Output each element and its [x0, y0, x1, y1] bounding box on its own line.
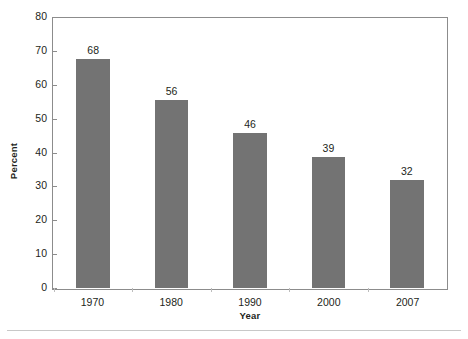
bar-value-label: 56 — [166, 85, 178, 97]
bar-value-label: 32 — [401, 165, 413, 177]
x-tick-label: 1990 — [211, 296, 290, 308]
x-axis-tick-labels: 19701980199020002007 — [53, 296, 447, 308]
y-tick-label: 30 — [35, 179, 47, 191]
y-tick-label: 80 — [35, 10, 47, 22]
y-tick-label: 10 — [35, 247, 47, 259]
bar-slot: 32 — [368, 19, 446, 288]
y-axis-title: Percent — [8, 121, 19, 201]
footer-divider — [7, 330, 461, 331]
bar-slot: 68 — [54, 19, 132, 288]
bar[interactable]: 56 — [155, 100, 189, 288]
y-tick-label: 70 — [35, 44, 47, 56]
x-tick-label: 2007 — [368, 296, 447, 308]
y-tick-label: 20 — [35, 213, 47, 225]
x-tick-mark — [54, 288, 55, 292]
x-tick-mark — [289, 288, 290, 292]
bar-slot: 56 — [132, 19, 210, 288]
bars-container: 6856463932 — [54, 19, 446, 288]
x-tick-mark — [211, 288, 212, 292]
y-tick-label: 60 — [35, 78, 47, 90]
x-tick-mark — [368, 288, 369, 292]
x-tick-mark — [132, 288, 133, 292]
bar-slot: 39 — [289, 19, 367, 288]
bar-value-label: 39 — [323, 142, 335, 154]
bar-slot: 46 — [211, 19, 289, 288]
bar[interactable]: 68 — [76, 59, 110, 288]
y-tick-mark — [53, 17, 57, 18]
x-tick-label: 1970 — [53, 296, 132, 308]
plot-area: 01020304050607080 6856463932 — [52, 17, 448, 290]
bar-value-label: 68 — [87, 44, 99, 56]
y-tick-label: 40 — [35, 146, 47, 158]
x-axis-title: Year — [53, 310, 447, 321]
bar[interactable]: 32 — [390, 180, 424, 288]
x-tick-label: 2000 — [289, 296, 368, 308]
bar[interactable]: 39 — [312, 157, 346, 288]
y-tick-label: 50 — [35, 112, 47, 124]
bar-chart-figure: Percent 01020304050607080 6856463932 197… — [0, 0, 468, 339]
y-tick-label: 0 — [41, 281, 47, 293]
bar-value-label: 46 — [244, 118, 256, 130]
x-tick-label: 1980 — [132, 296, 211, 308]
bar[interactable]: 46 — [233, 133, 267, 288]
